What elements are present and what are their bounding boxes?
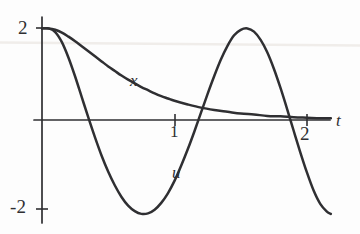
plot-svg (0, 0, 360, 234)
t-axis-tick-label-1: 1 (170, 123, 179, 140)
curve-label-u: u (172, 164, 181, 181)
curve-u (42, 28, 331, 214)
figure-canvas: 2 -2 1 2 t x u (0, 0, 360, 234)
t-axis-tick-label-2: 2 (300, 124, 310, 143)
curve-label-x: x (130, 72, 138, 89)
t-axis-label: t (336, 112, 341, 129)
axes-group (34, 17, 330, 223)
y-axis-tick-label-negative-2: -2 (10, 197, 26, 216)
scan-artifact-line (0, 43, 360, 46)
curves-group (42, 28, 331, 214)
y-axis-tick-label-2: 2 (18, 18, 28, 37)
